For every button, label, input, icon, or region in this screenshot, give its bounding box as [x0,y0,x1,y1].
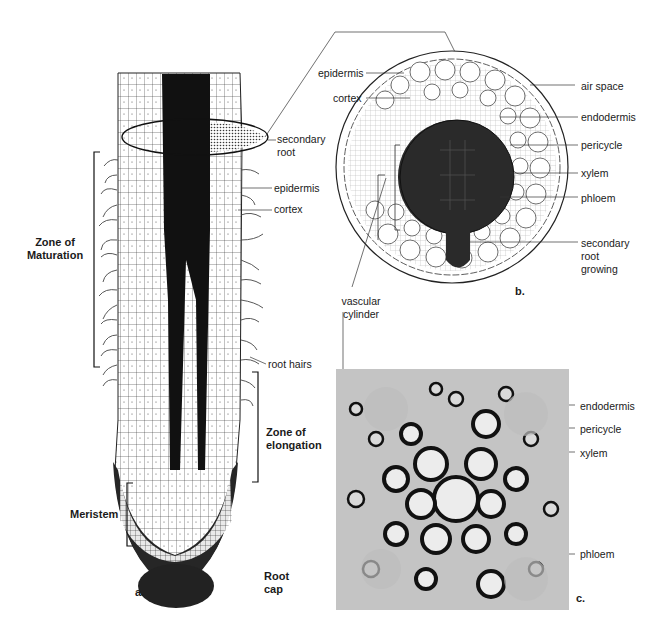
label-b-cortex: cortex [333,92,362,105]
root-hairs-left [99,160,118,386]
root-cap-label: Root cap [264,570,294,596]
zone-meristem-label: Meristem [70,508,118,521]
root-hairs-right [241,170,263,407]
label-c-xylem: xylem [580,447,607,460]
cross-section-diagram [336,51,568,283]
panel-b-label: b. [515,285,525,298]
label-b-phloem: phloem [581,192,615,205]
label-b-xylem: xylem [581,167,608,180]
label-b-pericycle: pericycle [581,139,622,152]
panel-a-label: a. [135,586,144,599]
label-a-root-hairs: root hairs [268,358,312,371]
label-b-endodermis: endodermis [581,111,636,124]
label-vascular-cylinder: vascular cylinder [336,295,386,321]
maturation-bracket [94,152,100,367]
zone-maturation-label: Zone of Maturation [24,236,86,262]
label-c-phloem: phloem [580,548,614,561]
label-a-epidermis: epidermis [274,182,320,195]
label-c-endodermis: endodermis [580,400,635,413]
label-c-pericycle: pericycle [580,423,621,436]
label-b-air-space: air space [581,80,624,93]
zone-elongation-label: Zone of elongation [266,426,336,452]
label-b-epidermis: epidermis [318,67,364,80]
label-a-cortex: cortex [274,203,303,216]
elongation-bracket [252,372,258,482]
panel-c-label: c. [576,592,585,605]
label-b-secondary-root-growing: secondary root growing [581,237,631,276]
vascular-micrograph [336,369,569,610]
label-a-secondary-root: secondary root [277,133,325,159]
